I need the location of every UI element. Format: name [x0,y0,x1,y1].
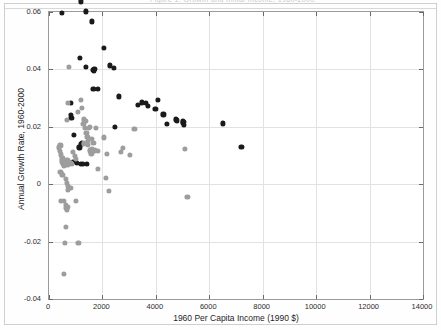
scatter-point [89,151,94,156]
x-axis-tick [156,295,157,299]
y-axis-tick [49,69,53,70]
scatter-point [174,118,179,123]
scatter-point [65,207,70,212]
scatter-point [85,142,90,147]
x-axis-tick [102,295,103,299]
scatter-point [143,100,148,105]
y-gridline [49,242,423,243]
scatter-point [85,161,90,166]
scatter-point [105,151,110,156]
x-tick-label: 14000 [412,302,433,311]
scatter-point [69,100,74,105]
x-gridline [156,12,157,299]
scatter-point [81,117,86,122]
scatter-point [69,160,74,165]
scatter-point [80,161,85,166]
scatter-point [103,175,108,180]
scatter-point [91,86,96,91]
x-tick-label: 12000 [358,302,379,311]
x-axis-tick [209,12,210,16]
scatter-point [64,206,69,211]
scatter-point [57,145,62,150]
scatter-point [139,100,144,105]
scatter-point [161,112,166,117]
scatter-point [84,131,89,136]
scatter-point [65,158,70,163]
y-axis-tick [49,299,53,300]
scatter-point [119,149,124,154]
x-gridline [209,12,210,299]
scatter-point [63,162,68,167]
scatter-point [116,94,121,99]
scatter-point [59,160,64,165]
y-axis-tick [49,127,53,128]
scatter-point [127,152,132,157]
y-gridline [49,69,423,70]
scatter-point [89,136,94,141]
scatter-point [61,271,66,276]
x-tick-label: 10000 [305,302,326,311]
x-tick-label: 0 [46,302,50,311]
figure-page: Figure 1. Growth and Initial Income, 196… [0,0,441,330]
scatter-point [89,147,94,152]
scatter-point [67,159,72,164]
scatter-point [70,159,75,164]
x-axis-tick [102,12,103,16]
scatter-point [59,10,64,15]
scatter-point [70,149,75,154]
scatter-point [145,104,150,109]
scatter-point [63,224,68,229]
scatter-point [174,117,179,122]
x-gridline [316,12,317,299]
y-tick-label: 0 [37,179,41,188]
y-axis-tick [419,242,423,243]
scatter-point [107,188,112,193]
x-gridline [263,12,264,299]
x-axis-tick [370,295,371,299]
x-axis-tick [316,12,317,16]
scatter-point [136,102,141,107]
scatter-point [66,163,71,168]
scatter-point [64,176,69,181]
scatter-point [69,112,74,117]
scatter-point [83,9,88,14]
scatter-point [78,55,83,60]
y-axis-tick [49,12,53,13]
x-tick-label: 6000 [200,302,217,311]
x-axis-tick [423,12,424,16]
scatter-point [61,157,66,162]
scatter-point [64,161,69,166]
y-axis-tick [419,12,423,13]
y-axis-tick [49,242,53,243]
scatter-point [69,161,74,166]
scatter-point [88,149,93,154]
scatter-point [58,148,63,153]
scatter-chart: 02000400060008000100001200014000 -0.04-0… [0,0,441,330]
scatter-point [78,98,83,103]
scatter-point [63,203,68,208]
scatter-point [71,132,76,137]
scatter-point [72,153,77,158]
x-tick-label: 2000 [93,302,110,311]
y-gridline [49,127,423,128]
scatter-point [60,173,65,178]
scatter-point [220,121,225,126]
scatter-point [65,101,70,106]
scatter-point [61,198,66,203]
scatter-point [65,118,70,123]
scatter-point [239,144,244,149]
y-axis-tick [419,184,423,185]
y-tick-label: -0.02 [24,236,41,245]
scatter-point [87,148,92,153]
scatter-point [64,158,69,163]
x-tick-label: 8000 [253,302,270,311]
scatter-point [164,121,169,126]
scatter-point [60,160,65,165]
x-axis-tick [156,12,157,16]
scatter-point [78,161,83,166]
y-tick-label: 0.06 [26,7,41,16]
scatter-point [60,155,65,160]
x-gridline [102,12,103,299]
x-axis-tick [316,295,317,299]
y-axis-tick [419,127,423,128]
